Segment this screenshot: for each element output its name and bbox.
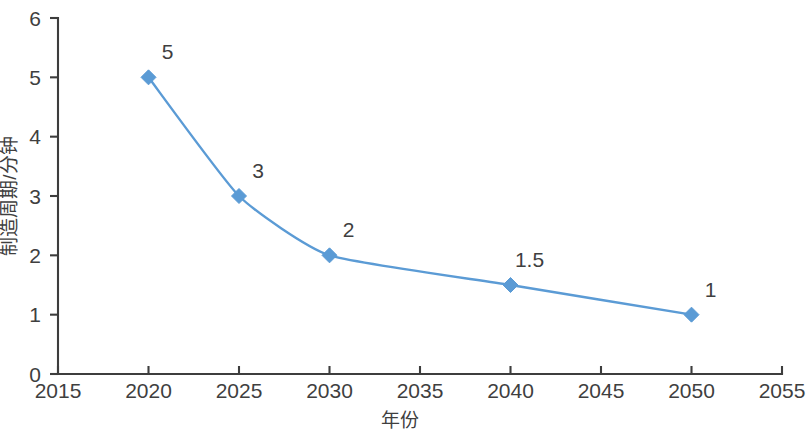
data-point-marker-2050 [684,307,699,322]
y-tick-label-4: 4 [29,125,41,148]
data-label-2025: 3 [252,159,264,182]
series-data-labels: 5321.51 [162,40,717,300]
x-axis-ticks [58,366,782,374]
data-label-2020: 5 [162,40,174,63]
x-axis-title: 年份 [381,410,419,431]
x-tick-label-2020: 2020 [125,379,172,402]
x-tick-label-2035: 2035 [397,379,444,402]
data-label-2050: 1 [705,278,717,301]
x-tick-label-2040: 2040 [487,379,534,402]
x-tick-label-2045: 2045 [578,379,625,402]
y-tick-label-5: 5 [29,66,41,89]
y-axis-ticks [50,18,58,374]
series-line-manufacturing-cycle [149,77,692,314]
x-axis-tick-labels: 201520202025203020352040204520502055 [35,379,806,402]
x-tick-label-2030: 2030 [306,379,353,402]
y-axis-title: 制造周期/分钟 [0,136,20,255]
y-tick-label-1: 1 [29,303,41,326]
series-markers [141,70,699,322]
y-axis-tick-labels: 0123456 [29,7,41,386]
chart-canvas: 0123456 20152020202520302035204020452050… [0,0,808,435]
data-point-marker-2030 [322,248,337,263]
y-tick-label-3: 3 [29,185,41,208]
y-tick-label-6: 6 [29,7,41,30]
data-point-marker-2040 [503,278,518,293]
x-tick-label-2055: 2055 [759,379,806,402]
data-label-2030: 2 [343,218,355,241]
line-chart: 0123456 20152020202520302035204020452050… [0,0,808,435]
x-tick-label-2025: 2025 [216,379,263,402]
data-label-2040: 1.5 [515,248,544,271]
x-tick-label-2015: 2015 [35,379,82,402]
x-tick-label-2050: 2050 [668,379,715,402]
y-tick-label-2: 2 [29,244,41,267]
